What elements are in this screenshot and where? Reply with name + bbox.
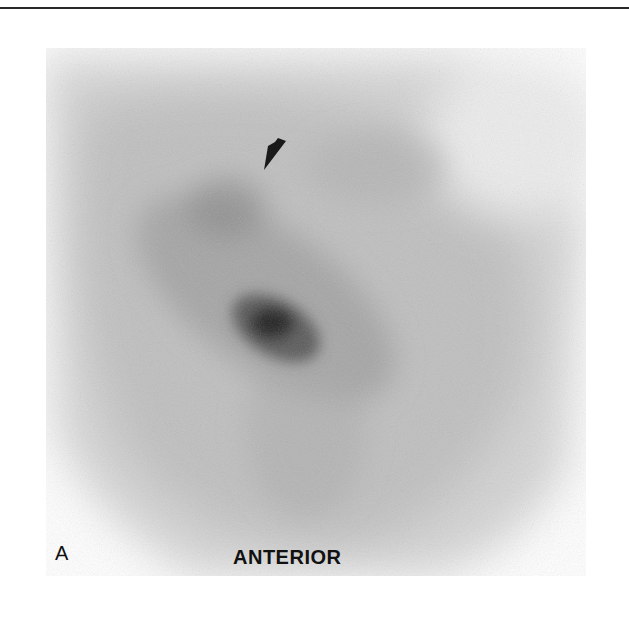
scintigraphy-image [46,48,586,576]
view-label: ANTERIOR [233,546,341,569]
panel-label: A [55,542,68,565]
top-rule-divider [0,7,629,9]
scan-graphic [46,48,586,576]
figure: A ANTERIOR [0,0,629,620]
